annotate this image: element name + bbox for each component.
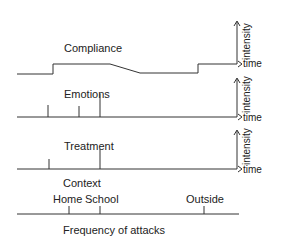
- arrow-right-icon: [238, 166, 242, 172]
- arrow-right-icon: [238, 114, 242, 120]
- panel-emotions: Emotions time intensity: [17, 76, 262, 123]
- y-axis-label: intensity: [241, 23, 252, 60]
- panel-title: Compliance: [64, 42, 122, 54]
- diagram-canvas: Compliance time intensity Emotions time …: [0, 0, 283, 237]
- compliance-curve: [17, 64, 237, 74]
- marker-home-label: Home: [53, 193, 82, 205]
- panel-title: Treatment: [64, 140, 114, 152]
- marker-school-label: School: [85, 193, 119, 205]
- context-title: Context: [63, 177, 101, 189]
- y-axis-label: intensity: [241, 128, 252, 165]
- context-section: Context Home School Outside Frequency of…: [17, 177, 239, 236]
- marker-outside-label: Outside: [186, 193, 224, 205]
- panel-compliance: Compliance time intensity: [17, 21, 262, 74]
- panel-treatment: Treatment time intensity: [17, 128, 262, 175]
- arrow-right-icon: [238, 61, 242, 67]
- y-axis-label: intensity: [241, 76, 252, 113]
- context-axis-label: Frequency of attacks: [63, 224, 166, 236]
- panel-title: Emotions: [64, 88, 110, 100]
